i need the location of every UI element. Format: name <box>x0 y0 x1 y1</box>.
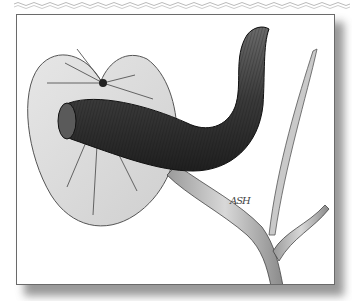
wavy-border-decoration <box>14 0 352 10</box>
illustration-frame: ASH <box>16 14 335 285</box>
branch-stem <box>273 205 329 261</box>
artist-signature: ASH <box>230 195 250 206</box>
main-stem <box>167 165 283 285</box>
leech-illustration <box>17 15 335 285</box>
thin-stem <box>269 49 317 235</box>
